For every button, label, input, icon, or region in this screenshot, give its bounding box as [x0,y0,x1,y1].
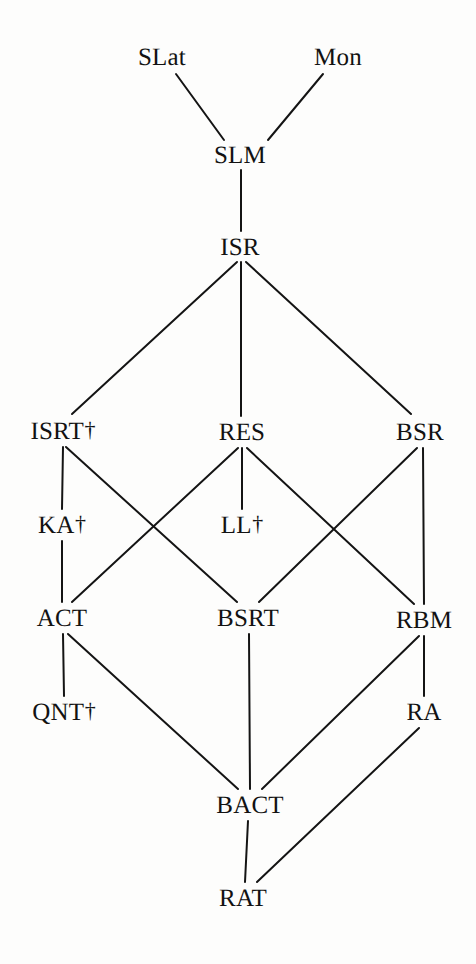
lattice-diagram: SLatMonSLMISRISRT†RESBSRKA†LL†ACTBSRTRBM… [0,0,476,964]
node-label-text: BSR [396,419,444,446]
node-qnt: QNT† [32,700,96,725]
edge-isr-bsr [246,262,411,414]
node-rat: RAT [219,886,267,911]
edge-isrt-ka [62,447,63,509]
node-bsr: BSR [396,420,444,445]
node-slm: SLM [214,143,266,168]
node-rbm: RBM [396,608,452,633]
node-label-text: RA [406,699,441,726]
node-bact: BACT [216,793,283,818]
node-label-text: ISR [220,234,260,261]
node-ka: KA† [38,513,86,538]
node-ra: RA [406,700,441,725]
edge-res-act [72,448,238,602]
node-label-text: KA [38,512,75,539]
node-label-text: SLat [138,44,186,71]
edge-bsr-bsrt [259,448,417,602]
dagger-icon: † [252,511,263,536]
node-bsrt: BSRT [217,606,279,631]
edge-res-rbm [247,448,414,604]
node-label-text: Mon [314,44,362,71]
node-label-text: RAT [219,885,267,912]
node-label-text: LL [221,512,252,539]
node-res: RES [219,420,265,445]
edge-isr-isrt [72,262,237,414]
edge-mon-slm [268,74,323,140]
edge-bsr-rbm [423,448,424,604]
node-label-text: RES [219,419,265,446]
node-label-text: SLM [214,142,266,169]
edge-bact-rat [245,821,248,882]
dagger-icon: † [75,511,86,536]
node-isr: ISR [220,235,260,260]
node-mon: Mon [314,45,362,70]
edge-bsrt-bact [249,634,250,789]
edge-slat-slm [176,74,224,140]
node-label-text: BSRT [217,605,279,632]
dagger-icon: † [85,698,96,723]
edge-rbm-bact [262,636,419,789]
edge-act-qnt [63,634,64,696]
dagger-icon: † [84,417,95,442]
edge-isrt-bsrt [66,447,237,602]
node-isrt: ISRT† [30,419,95,444]
node-label-text: ISRT [30,418,83,445]
node-label-text: RBM [396,607,452,634]
node-slat: SLat [138,45,186,70]
node-label-text: ACT [37,605,88,632]
node-label-text: BACT [216,792,283,819]
node-act: ACT [37,606,88,631]
node-ll: LL† [221,513,264,538]
node-label-text: QNT [32,699,84,726]
